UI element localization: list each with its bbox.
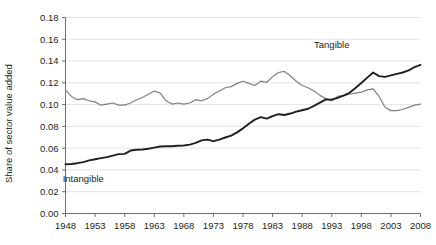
y-tick-label: 0.14 <box>40 55 59 66</box>
y-tick-label: 0.06 <box>40 143 59 154</box>
x-tick-label: 1958 <box>114 220 135 231</box>
x-tick-label: 1978 <box>232 220 253 231</box>
y-axis <box>62 18 66 214</box>
y-tick-label: 0.18 <box>40 12 59 23</box>
x-tick-label: 1968 <box>173 220 194 231</box>
line-chart: 0.000.020.040.060.080.100.120.140.160.18… <box>0 0 436 245</box>
x-tick-label: 1998 <box>351 220 372 231</box>
y-tick-label: 0.00 <box>40 208 59 219</box>
series-label-tangible: Tangible <box>314 39 349 50</box>
x-axis <box>66 214 421 218</box>
series-label-intangible: Intangible <box>63 173 104 184</box>
series-line-intangible <box>66 65 421 164</box>
x-tick-labels: 1948195319581963196819731978198319881993… <box>55 220 431 231</box>
x-tick-label: 1988 <box>292 220 313 231</box>
y-tick-label: 0.08 <box>40 121 59 132</box>
x-tick-label: 2003 <box>380 220 401 231</box>
y-tick-label: 0.10 <box>40 99 59 110</box>
x-tick-label: 1948 <box>55 220 76 231</box>
x-tick-label: 1963 <box>144 220 165 231</box>
y-tick-label: 0.12 <box>40 77 59 88</box>
y-tick-labels: 0.000.020.040.060.080.100.120.140.160.18 <box>40 12 59 219</box>
x-tick-label: 1983 <box>262 220 283 231</box>
y-tick-label: 0.02 <box>40 186 59 197</box>
y-tick-label: 0.04 <box>40 164 59 175</box>
x-tick-label: 1973 <box>203 220 224 231</box>
y-tick-label: 0.16 <box>40 34 59 45</box>
y-axis-title: Share of sector value added <box>3 64 14 183</box>
chart-container: 0.000.020.040.060.080.100.120.140.160.18… <box>0 0 436 245</box>
series-lines <box>66 65 421 164</box>
x-tick-label: 2008 <box>410 220 431 231</box>
x-tick-label: 1993 <box>321 220 342 231</box>
x-tick-label: 1953 <box>85 220 106 231</box>
